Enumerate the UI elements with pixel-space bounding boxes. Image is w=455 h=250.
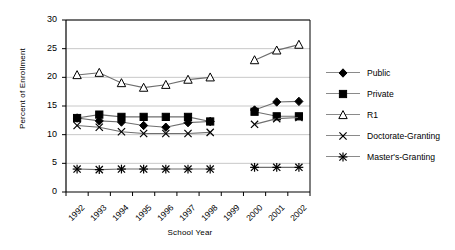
data-point	[250, 163, 259, 172]
legend-label: R1	[367, 110, 378, 120]
chart-figure: 051015202530 199219931994199519961997199…	[0, 0, 455, 250]
legend-label: Master's-Granting	[367, 152, 435, 162]
y-tick-label: 30	[33, 14, 57, 24]
legend-marker-glyph	[339, 152, 348, 161]
legend-label: Doctorate-Granting	[367, 131, 440, 141]
legend-key-icon	[326, 67, 360, 79]
legend-marker	[326, 151, 360, 163]
series-master-s-granting	[73, 163, 304, 174]
data-point	[117, 79, 125, 87]
legend-marker-glyph	[339, 68, 347, 76]
data-point	[250, 56, 258, 64]
legend-item-master-s-granting[interactable]: Master's-Granting	[326, 146, 440, 167]
data-point	[96, 111, 103, 118]
data-point	[273, 98, 281, 106]
data-point	[118, 113, 125, 120]
data-point	[162, 113, 169, 120]
legend-key-icon	[326, 151, 360, 163]
legend-item-r1[interactable]: R1	[326, 104, 440, 125]
legend-item-doctorate-granting[interactable]: Doctorate-Granting	[326, 125, 440, 146]
data-point	[206, 165, 215, 174]
data-point	[95, 165, 104, 174]
legend-marker	[326, 109, 360, 121]
data-point	[295, 163, 304, 172]
legend-key-icon	[326, 130, 360, 142]
data-point	[295, 113, 302, 120]
data-point	[139, 165, 148, 174]
chart-legend: PublicPrivateR1Doctorate-GrantingMaster'…	[326, 62, 440, 167]
legend-label: Private	[367, 89, 394, 99]
y-tick-label: 15	[33, 100, 57, 110]
data-point	[251, 121, 258, 128]
data-point	[251, 108, 258, 115]
x-axis-title: School Year	[100, 228, 280, 237]
data-point	[73, 165, 82, 174]
data-point	[73, 114, 80, 121]
data-point	[95, 68, 103, 76]
data-point	[117, 165, 126, 174]
data-point	[161, 165, 170, 174]
data-point	[184, 113, 191, 120]
gridlines	[66, 20, 310, 163]
legend-marker	[326, 130, 360, 142]
y-tick-label: 25	[33, 43, 57, 53]
data-point	[295, 97, 303, 105]
y-tick-label: 10	[33, 129, 57, 139]
legend-key-icon	[326, 88, 360, 100]
legend-marker-glyph	[339, 132, 346, 139]
data-point	[184, 165, 193, 174]
legend-item-public[interactable]: Public	[326, 62, 440, 83]
y-tick-label: 5	[33, 157, 57, 167]
legend-marker	[326, 88, 360, 100]
series-r1	[73, 40, 303, 91]
data-point	[295, 40, 303, 48]
y-tick-label: 0	[33, 186, 57, 196]
data-point	[272, 163, 281, 172]
y-axis-title: Percent of Enrollment	[18, 19, 27, 159]
legend-item-private[interactable]: Private	[326, 83, 440, 104]
legend-marker-glyph	[339, 110, 347, 118]
legend-key-icon	[326, 109, 360, 121]
y-tick-label: 20	[33, 71, 57, 81]
legend-marker	[326, 67, 360, 79]
data-point	[140, 121, 148, 129]
data-point	[207, 118, 214, 125]
data-point	[140, 113, 147, 120]
legend-marker-glyph	[339, 90, 346, 97]
legend-label: Public	[367, 68, 390, 78]
series-layer	[73, 40, 304, 174]
